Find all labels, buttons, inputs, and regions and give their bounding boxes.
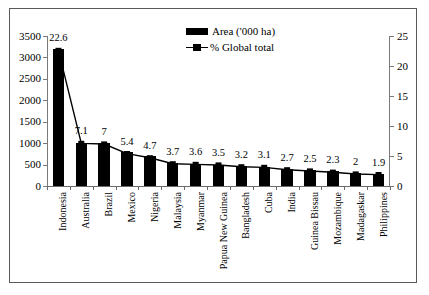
data-label: 3.7: [166, 147, 179, 158]
data-label: 3.2: [235, 150, 248, 161]
legend-label-area: Area ('000 ha): [212, 26, 275, 37]
x-tick: [116, 186, 117, 190]
legend-item-percent: % Global total: [186, 39, 275, 55]
data-label: 2.7: [281, 153, 294, 164]
x-tick: [47, 186, 48, 190]
line-marker: [330, 170, 336, 175]
chart-frame: 0500100015002000250030003500 0510152025 …: [9, 8, 417, 283]
data-label: 3.6: [189, 147, 202, 158]
line-marker: [193, 162, 199, 167]
y-tick-label-left: 0: [36, 181, 42, 192]
x-tick: [230, 186, 231, 190]
line-marker: [307, 168, 313, 173]
data-label: 3.5: [212, 148, 225, 159]
y-tick-right: [390, 66, 394, 67]
x-category-label-text: Mexico: [127, 192, 137, 223]
x-tick: [93, 186, 94, 190]
data-label: 7: [102, 127, 107, 138]
data-label: 2.3: [326, 155, 339, 166]
y-tick-label-left: 2000: [19, 95, 41, 106]
data-label: 5.4: [120, 137, 133, 148]
line-marker: [216, 162, 222, 167]
x-category-label-text: Philippines: [379, 192, 389, 237]
y-tick-label-left: 3000: [19, 52, 41, 63]
legend-item-area: Area ('000 ha): [186, 23, 275, 39]
line-marker: [170, 161, 176, 166]
legend-line-swatch-icon: [186, 43, 208, 52]
line-marker: [78, 141, 84, 146]
y-tick-right: [390, 36, 394, 37]
legend-label-percent: % Global total: [210, 42, 274, 53]
x-tick: [321, 186, 322, 190]
x-category-label-text: Guinea Bissau: [310, 192, 320, 250]
y-tick-label-right: 15: [397, 91, 408, 102]
plot-area: 0500100015002000250030003500 0510152025 …: [47, 36, 390, 186]
x-tick: [299, 186, 300, 190]
x-category-label-text: Indonesia: [58, 192, 68, 231]
x-tick: [70, 186, 71, 190]
legend-bar-swatch-icon: [186, 28, 208, 35]
y-tick-label-right: 0: [397, 181, 403, 192]
line-marker: [353, 171, 359, 176]
x-category-label-text: Nigeria: [150, 192, 160, 222]
line-marker: [55, 48, 61, 53]
x-tick: [344, 186, 345, 190]
line-marker: [238, 164, 244, 169]
x-category-label-text: Australia: [81, 192, 91, 229]
x-category-label-text: Cuba: [264, 192, 274, 213]
x-category-label-text: Mozambique: [333, 192, 343, 245]
y-tick-label-right: 25: [397, 31, 408, 42]
y-tick-label-right: 5: [397, 151, 403, 162]
data-label: 3.1: [258, 150, 271, 161]
x-tick: [161, 186, 162, 190]
x-tick: [207, 186, 208, 190]
data-label: 1.9: [372, 158, 385, 169]
y-tick-label-left: 1000: [19, 138, 41, 149]
line-marker: [261, 165, 267, 170]
x-category-label-text: Papua New Guinea: [219, 192, 229, 269]
y-tick-label-right: 20: [397, 61, 408, 72]
x-tick: [138, 186, 139, 190]
x-category-label-text: Myanmar: [196, 192, 206, 231]
y-tick-right: [390, 96, 394, 97]
line-marker: [147, 155, 153, 160]
line-marker: [376, 172, 382, 177]
x-category-label-text: Madagaskar: [356, 192, 366, 241]
chart-legend: Area ('000 ha) % Global total: [186, 23, 275, 55]
line-marker: [124, 151, 130, 156]
y-tick-right: [390, 156, 394, 157]
data-label: 22.6: [49, 33, 67, 44]
data-label: 2: [353, 157, 358, 168]
y-tick-label-right: 10: [397, 121, 408, 132]
x-category-label-text: Bangladesh: [241, 192, 251, 239]
x-category-label-text: India: [287, 192, 297, 213]
data-label: 4.7: [143, 141, 156, 152]
line-marker: [101, 141, 107, 146]
x-category-label-text: Brazil: [104, 192, 114, 216]
x-tick: [184, 186, 185, 190]
line-marker: [284, 167, 290, 172]
data-label: 7.1: [75, 126, 88, 137]
y-tick-label-left: 500: [25, 159, 42, 170]
x-category-label-text: Malaysia: [173, 192, 183, 229]
x-tick: [367, 186, 368, 190]
x-tick: [390, 186, 391, 190]
y-tick-right: [390, 126, 394, 127]
y-tick-label-left: 1500: [19, 116, 41, 127]
data-label: 2.5: [303, 154, 316, 165]
x-tick: [253, 186, 254, 190]
x-axis-line: [47, 186, 390, 187]
y-tick-label-left: 3500: [19, 31, 41, 42]
y-tick-label-left: 2500: [19, 73, 41, 84]
x-tick: [276, 186, 277, 190]
